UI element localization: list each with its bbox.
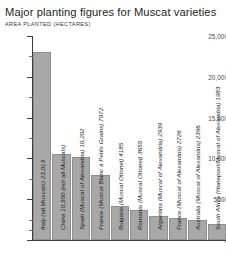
bar-column: Bulgaria (Muscat Ottonel) 4185: [111, 36, 129, 240]
bar: [149, 216, 167, 240]
bar-label: France (Muscat of Alexandria) 2726: [175, 130, 182, 230]
bar: [33, 52, 51, 240]
y-tick-mark: [27, 240, 33, 241]
bar-label: South Africa (Hanepoot/Muscat of Alexand…: [213, 87, 220, 230]
chart-axis-unit-label: AREA PLANTED (HECTARES): [5, 21, 224, 27]
bar: [111, 206, 129, 240]
bar-label: Argentina (Muscat of Alexandria) 2939: [155, 123, 162, 230]
bar-column: France (Muscat Blanc à Petits Grains) 79…: [91, 36, 109, 240]
plot-area: 25,00020,00015,00010,00050000 Italy (all…: [2, 30, 226, 262]
chart-card: Major planting figures for Muscat variet…: [0, 0, 226, 274]
bar-label: Australia (Muscat of Alexandria) 2396: [194, 125, 201, 230]
bar-column: Argentina (Muscat of Alexandria) 2939: [149, 36, 167, 240]
bar-column: China 10,500 (not all Muscats): [52, 36, 70, 240]
bar-series: Italy (all Muscats) 23,013China 10,500 (…: [33, 36, 226, 240]
bar: [130, 210, 148, 240]
bar-column: Australia (Muscat of Alexandria) 2396: [188, 36, 206, 240]
bar-column: France (Muscat of Alexandria) 2726: [169, 36, 187, 240]
bar-column: South Africa (Hanepoot/Muscat of Alexand…: [208, 36, 226, 240]
chart-title: Major planting figures for Muscat variet…: [5, 6, 224, 19]
bar-column: Romania (Muscat Ottonel) 3655: [130, 36, 148, 240]
x-axis-baseline: [32, 240, 226, 241]
bar: [72, 157, 90, 240]
bar-column: Italy (all Muscats) 23,013: [33, 36, 51, 240]
bar: [208, 224, 226, 240]
bar: [188, 220, 206, 240]
bar-column: Spain (Muscat of Alexandria) 10,202: [72, 36, 90, 240]
bar: [52, 154, 70, 240]
bar: [169, 218, 187, 240]
bar: [91, 175, 109, 240]
